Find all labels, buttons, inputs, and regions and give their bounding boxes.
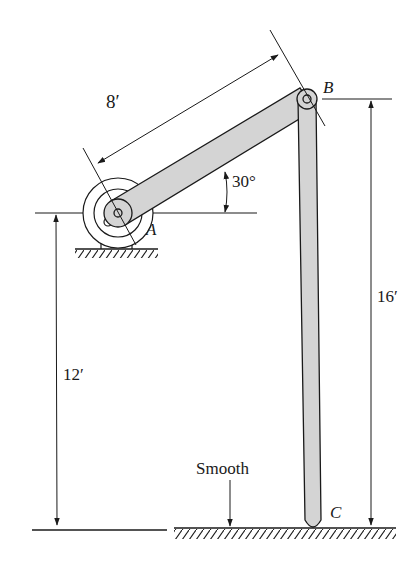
member-ab [104,88,314,227]
member-bc [297,89,321,527]
mechanism-diagram [0,0,419,565]
label-b-height: 16′ [377,288,398,305]
dimension-arrow-12 [56,215,57,525]
label-point-b: B [323,79,333,96]
label-angle: 30° [232,173,256,190]
angle-arrow-30 [225,172,227,212]
label-smooth-surface: Smooth [196,460,249,477]
smooth-ground [174,528,396,539]
label-ab-length: 8′ [106,92,120,111]
label-a-height: 12′ [63,366,84,383]
label-point-a: A [146,221,156,238]
label-point-c: C [330,504,341,521]
